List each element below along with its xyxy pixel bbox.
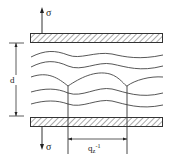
spacing-label: d [10, 75, 15, 85]
bottom-plate [31, 118, 163, 127]
stress-label-top: σ [46, 7, 52, 18]
stress-arrow-down-icon [40, 127, 44, 150]
top-plate [31, 34, 163, 43]
layer-1 [31, 51, 163, 57]
stress-arrow-up-icon [40, 7, 44, 33]
layer-2 [31, 62, 163, 69]
wavelength-label: qz-1 [88, 143, 100, 154]
wavelength-dimension [68, 138, 127, 141]
undulating-layers [31, 51, 163, 106]
smectic-undulation-diagram: σ σ d qz-1 [0, 0, 173, 162]
layer-4 [31, 89, 163, 96]
layer-5 [31, 100, 163, 106]
stress-label-bottom: σ [46, 141, 52, 152]
layer-3 [31, 73, 163, 86]
